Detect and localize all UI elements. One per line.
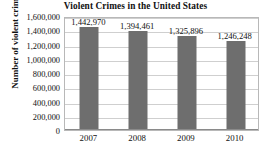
bar-slot: [65, 18, 114, 130]
y-tick-label: 400,000: [12, 98, 60, 107]
bar-chart-figure: Violent Crimes in the United States Numb…: [0, 0, 271, 153]
data-label: 1,325,896: [169, 26, 203, 36]
bar[interactable]: [80, 27, 99, 130]
y-tick-label: 1,400,000: [12, 27, 60, 36]
x-tick-label: 2009: [177, 133, 195, 143]
y-tick-label: 200,000: [12, 112, 60, 121]
chart-title: Violent Crimes in the United States: [0, 1, 271, 11]
y-tick-label: 800,000: [12, 70, 60, 79]
x-axis-tick-labels: 2007200820092010: [64, 133, 259, 147]
y-tick-label: 1,200,000: [12, 41, 60, 50]
y-tick-label: 1,000,000: [12, 55, 60, 64]
bar[interactable]: [226, 41, 245, 130]
y-tick-label: 0: [12, 127, 60, 136]
y-axis-tick-labels: 0200,000400,000600,000800,0001,000,0001,…: [14, 14, 62, 131]
bar-slot: [114, 18, 163, 130]
y-tick-label: 600,000: [12, 84, 60, 93]
x-tick-label: 2008: [128, 133, 146, 143]
bar[interactable]: [177, 36, 196, 130]
x-tick-label: 2010: [226, 133, 244, 143]
y-tick-label: 1,600,000: [12, 13, 60, 22]
data-label: 1,246,248: [217, 31, 251, 41]
data-label: 1,442,970: [71, 17, 105, 27]
data-label: 1,394,461: [120, 21, 154, 31]
x-axis-baseline: [65, 129, 258, 130]
x-tick-label: 2007: [80, 133, 98, 143]
bar[interactable]: [129, 31, 148, 130]
